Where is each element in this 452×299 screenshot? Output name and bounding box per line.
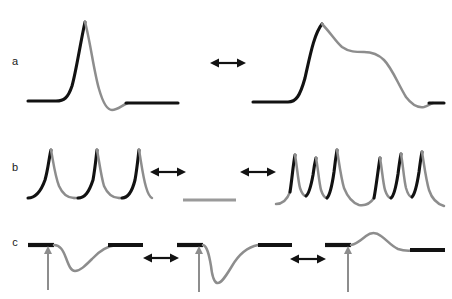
arrow-b-2-head-left <box>240 168 249 177</box>
trace-a-right-fall <box>322 24 433 107</box>
trace-b-burst-spike-5-fall <box>401 154 412 197</box>
arrow-b-2-head-right <box>267 168 276 177</box>
trace-b-spike-1-rise <box>28 150 51 198</box>
figure-container: a b <box>0 0 452 299</box>
trace-b-burst-spike-3-fall <box>337 150 374 205</box>
trace-b-burst-spike-1-fall <box>295 155 306 196</box>
trace-b-burst-spike-4-fall <box>380 158 391 198</box>
stimulus-arrow-c-2-head <box>195 246 203 254</box>
trace-c-left-deflection <box>54 245 116 271</box>
trace-b-burst-spike-4-rise <box>374 158 380 198</box>
arrow-a-1 <box>210 59 246 68</box>
trace-a-left-fall <box>85 22 128 110</box>
trace-b-spike-3-fall <box>139 150 152 198</box>
waveform-c-left-shallow-response <box>28 245 143 271</box>
trace-b-spike-1-fall <box>51 150 74 198</box>
trace-b-spike-2-fall <box>97 150 119 198</box>
trace-b-spike-2-rise <box>78 150 97 198</box>
stimulus-arrow-c-1 <box>44 246 52 290</box>
arrow-a-1-head-right <box>237 59 246 68</box>
trace-a-right-rise <box>253 24 322 102</box>
row-b-group: b <box>12 150 444 206</box>
row-c-group: c <box>12 233 445 292</box>
arrow-b-1-head-left <box>150 168 159 177</box>
arrow-a-1-head-left <box>210 59 219 68</box>
stimulus-arrow-c-3-head <box>344 246 352 254</box>
trace-b-spike-3-rise <box>122 150 139 198</box>
trace-b-burst-spike-3-rise <box>327 150 337 198</box>
arrow-c-2 <box>290 255 326 264</box>
row-label-a: a <box>12 55 19 67</box>
trace-c-mid-deflection <box>203 245 258 283</box>
trace-c-right-deflection <box>351 233 416 251</box>
arrow-c-1-head-right <box>170 254 179 263</box>
waveform-figure: a b <box>0 0 452 299</box>
trace-a-left-rise <box>28 22 85 101</box>
waveform-a-left-narrow-spike <box>28 22 178 110</box>
waveform-c-middle-deep-response <box>177 245 292 283</box>
stimulus-arrow-c-3 <box>344 246 352 292</box>
waveform-b-left-spike-train <box>28 150 152 198</box>
trace-b-burst-onset <box>276 192 290 204</box>
arrow-b-1 <box>150 168 186 177</box>
arrow-c-2-head-left <box>290 255 299 264</box>
trace-b-burst-spike-6-fall <box>422 152 444 206</box>
trace-b-burst-spike-2-rise <box>306 158 316 196</box>
row-label-c: c <box>12 236 18 248</box>
trace-b-burst-spike-5-rise <box>391 154 401 198</box>
stimulus-arrow-c-1-head <box>44 246 52 254</box>
waveform-b-right-burst-train <box>276 150 444 206</box>
arrow-c-1-head-left <box>143 254 152 263</box>
arrow-c-2-head-right <box>317 255 326 264</box>
waveform-a-right-plateau <box>253 24 444 107</box>
stimulus-arrow-c-2 <box>195 246 203 292</box>
arrow-b-1-head-right <box>177 168 186 177</box>
row-a-group: a <box>12 22 444 110</box>
arrow-c-1 <box>143 254 179 263</box>
arrow-b-2 <box>240 168 276 177</box>
waveform-c-right-inverted-response <box>325 233 445 251</box>
trace-b-burst-spike-6-rise <box>412 152 422 197</box>
trace-b-burst-spike-1-rise <box>290 155 295 192</box>
trace-b-burst-spike-2-fall <box>316 158 327 198</box>
row-label-b: b <box>12 161 18 173</box>
